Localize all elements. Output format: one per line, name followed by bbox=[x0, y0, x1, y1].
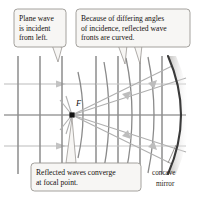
callout-plane-wave-line-1: Plane wave bbox=[19, 14, 54, 23]
callout-curved-fronts-line-2: of incidence, reflected wave bbox=[81, 24, 167, 33]
concave-mirror-label: concave mirror bbox=[152, 169, 176, 188]
leader-curved-fronts-a bbox=[118, 45, 127, 64]
concave-mirror-label-line-1: concave bbox=[152, 169, 176, 177]
callout-curved-fronts-line-3: fronts are curved. bbox=[81, 33, 134, 42]
callout-plane-wave-line-3: from left. bbox=[19, 33, 48, 42]
reflected-ray-upper-2 bbox=[72, 66, 172, 115]
callout-converge-line-1: Reflected waves converge bbox=[36, 168, 116, 177]
focal-point-dot bbox=[69, 112, 74, 117]
callout-leader-group bbox=[52, 45, 176, 163]
leader-plane-wave bbox=[52, 45, 62, 62]
focal-point-label: F bbox=[75, 99, 82, 108]
callout-plane-wave[interactable]: Plane wave is incident from left. bbox=[14, 9, 66, 47]
callout-converge[interactable]: Reflected waves converge at focal point. bbox=[31, 163, 141, 191]
callout-curved-fronts-line-1: Because of differing angles bbox=[81, 14, 164, 23]
concave-mirror-label-line-2: mirror bbox=[156, 180, 175, 188]
reflected-ray-lower-2 bbox=[72, 115, 172, 164]
callout-converge-line-2: at focal point. bbox=[36, 178, 78, 187]
physics-figure-concave-mirror: F Plane wave is incident from left. Beca… bbox=[0, 0, 211, 203]
reflected-ray-back-upper-2 bbox=[66, 96, 72, 115]
wave-field bbox=[4, 56, 189, 174]
diagram-canvas: F Plane wave is incident from left. Beca… bbox=[0, 0, 211, 203]
arrowhead-lower-incident bbox=[56, 143, 66, 150]
callout-plane-wave-line-2: is incident bbox=[19, 24, 51, 33]
callout-curved-fronts[interactable]: Because of differing angles of incidence… bbox=[76, 9, 190, 47]
leader-converge bbox=[66, 118, 76, 163]
incident-ray-group bbox=[4, 81, 186, 150]
leader-curved-fronts-b bbox=[134, 45, 142, 64]
arrowhead-upper-incident bbox=[56, 81, 66, 88]
